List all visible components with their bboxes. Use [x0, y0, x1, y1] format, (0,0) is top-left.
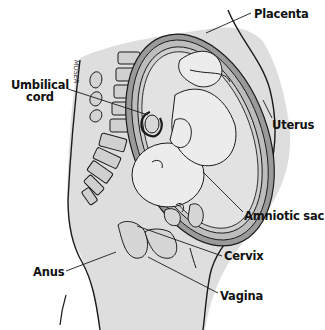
- anatomy-diagram: MOSER Placenta Umbilical cord Uterus Amn…: [0, 0, 325, 330]
- leg-line: [60, 295, 66, 325]
- label-placenta: Placenta: [254, 8, 309, 20]
- artist-signature: MOSER: [72, 60, 80, 83]
- label-anus: Anus: [33, 266, 64, 278]
- label-cervix: Cervix: [224, 250, 264, 262]
- label-umbilical-cord-line2: cord: [10, 91, 70, 103]
- label-uterus: Uterus: [272, 119, 314, 131]
- label-vagina: Vagina: [220, 290, 263, 302]
- illustration: MOSER: [0, 0, 325, 330]
- label-amniotic-sac: Amniotic sac: [244, 210, 324, 222]
- label-umbilical-cord: Umbilical cord: [10, 79, 70, 103]
